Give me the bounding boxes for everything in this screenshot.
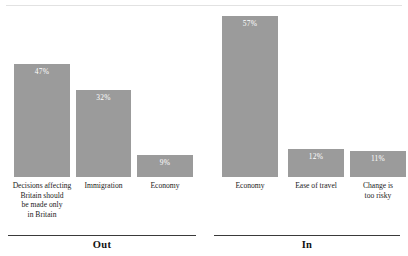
category-label-out-2: Economy	[135, 181, 195, 191]
bar-value-label: 47%	[14, 67, 70, 76]
bar-out-2: 9%	[137, 155, 193, 177]
bar-value-label: 9%	[137, 158, 193, 167]
bar-out-1: 32%	[76, 90, 131, 177]
bar-in-2: 11%	[350, 151, 406, 177]
category-label-in-1: Ease of travel	[284, 181, 348, 191]
bar-value-label: 11%	[350, 154, 406, 163]
group-label-in: In	[214, 239, 400, 250]
bar-value-label: 57%	[222, 19, 278, 28]
category-label-in-0: Economy	[220, 181, 280, 191]
group-label-out: Out	[8, 239, 196, 250]
group-rule-in	[214, 235, 400, 236]
bar-in-0: 57%	[222, 16, 278, 177]
group-rule-out	[8, 235, 196, 236]
bar-value-label: 12%	[288, 152, 344, 161]
category-label-out-1: Immigration	[73, 181, 134, 191]
plot-area: 47% Decisions affecting Britain should b…	[0, 0, 408, 256]
bar-in-1: 12%	[288, 149, 344, 177]
bar-out-0: 47%	[14, 64, 70, 177]
category-label-in-2: Change is too risky	[348, 181, 408, 200]
bar-chart: 47% Decisions affecting Britain should b…	[0, 0, 408, 256]
bar-value-label: 32%	[76, 93, 131, 102]
